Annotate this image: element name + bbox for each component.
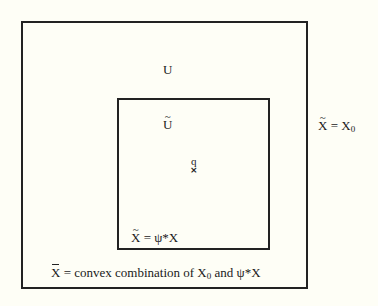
outer-region-x-tilde-annotation: ~ X = X0 [318,119,355,132]
equals-sign: = [140,230,154,245]
point-q: q × [190,157,198,175]
convex-combination-text: = convex combination of [60,265,197,280]
x0-base: X [341,118,350,133]
outer-region-x-bar-annotation: X = convex combination of X0 and ψ*X [51,266,261,279]
psi-star-x-term: ψ*X [154,230,178,245]
x-symbol: X [51,265,60,280]
bar-accent-icon [52,264,59,265]
x0-term: X0 [341,118,355,133]
x0-term: X0 [197,265,211,280]
tilde-accent-icon: ~ [133,224,139,235]
inner-region-x-tilde-annotation: ~ X = ψ*X [131,231,178,244]
x0-subscript: 0 [351,124,356,134]
and-joiner: and [211,265,236,280]
cross-marker-icon: × [190,166,198,175]
x-tilde-symbol: ~ X [318,119,327,132]
x0-base: X [197,265,206,280]
x-tilde-symbol: ~ X [131,231,140,244]
tilde-accent-icon: ~ [320,112,326,123]
x-bar-symbol: X [51,266,60,279]
inner-region-label: ~ U [163,118,172,131]
psi-star-x-term: ψ*X [237,265,261,280]
outer-region-label-text: U [163,62,172,77]
equals-sign: = [327,118,341,133]
tilde-accent-icon: ~ [165,111,171,122]
outer-region-label: U [163,63,172,76]
u-tilde-symbol: ~ U [163,118,172,131]
